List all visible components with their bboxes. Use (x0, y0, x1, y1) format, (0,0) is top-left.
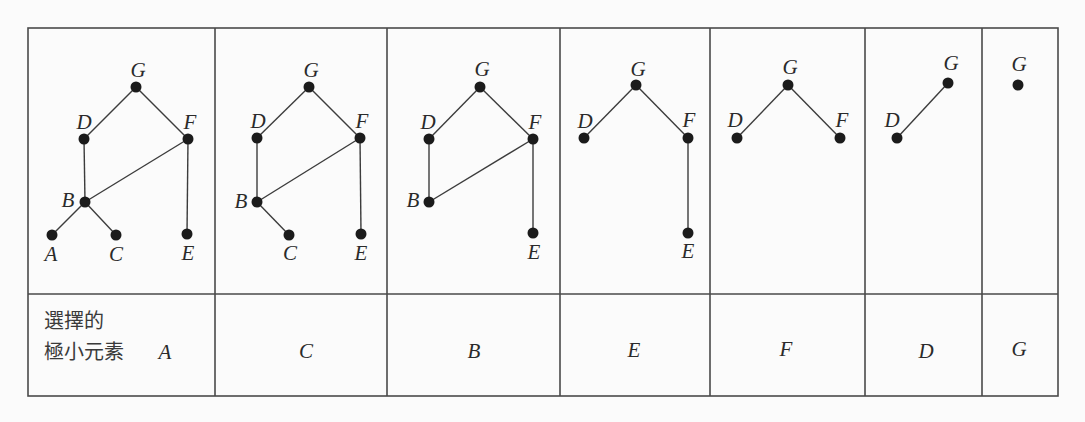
panel-3-node-B (424, 197, 435, 208)
panel-2-edge-B-F (257, 138, 360, 202)
panel-1-node-F (183, 134, 194, 145)
panel-4-node-F (683, 133, 694, 144)
panel-2-label-B: B (235, 189, 248, 213)
panel-5-label-D: D (726, 108, 742, 132)
panel-2-node-G (304, 82, 315, 93)
panel-1-label-G: G (130, 58, 145, 82)
selected-minimal-element-label: 選擇的 極小元素 (44, 306, 164, 368)
panel-4-label-E: E (681, 239, 695, 263)
panel-3-node-D (424, 134, 435, 145)
panel-3-label-E: E (527, 240, 541, 264)
panel-1-edge-F-E (187, 139, 188, 234)
panel-6-label-D: D (883, 108, 899, 132)
table-outer-border (28, 28, 1058, 396)
panel-1-node-B (80, 197, 91, 208)
panel-2-edge-B-C (257, 202, 289, 235)
panel-7-selected-element: G (1011, 337, 1026, 361)
panel-1-node-G (131, 82, 142, 93)
panel-2-edge-G-F (309, 87, 360, 138)
panel-1-label-A: A (43, 242, 58, 266)
panel-2-node-F (355, 133, 366, 144)
panel-2-edge-F-E (360, 138, 361, 234)
figure-page: GDFBACEAGDFBCECGDFBEBGDFEEGDFFDGDGG 選擇的 … (0, 0, 1085, 422)
panel-1-label-C: C (109, 242, 124, 266)
panel-1-edge-G-D (84, 87, 136, 139)
panel-5-edge-G-D (737, 85, 788, 138)
panel-6-selected-element: D (917, 339, 933, 363)
panel-2-node-B (252, 197, 263, 208)
panel-7-label-G: G (1011, 52, 1026, 76)
panel-1-edge-B-F (85, 139, 188, 202)
panel-3-node-F (528, 134, 539, 145)
panel-4-node-G (631, 80, 642, 91)
panel-1-edge-D-B (84, 139, 85, 202)
panel-5-label-F: F (835, 108, 849, 132)
panel-3-node-E (528, 228, 539, 239)
panel-2-label-C: C (283, 241, 298, 265)
panel-2-node-E (356, 229, 367, 240)
panel-2-selected-element: C (299, 339, 314, 363)
panel-2-label-F: F (355, 109, 369, 133)
panel-6-node-D (892, 133, 903, 144)
panel-5-node-D (732, 133, 743, 144)
panel-2-node-C (284, 230, 295, 241)
panel-2-node-D (252, 133, 263, 144)
panel-4-edge-G-F (636, 85, 688, 138)
panel-5-node-G (783, 80, 794, 91)
panel-3-edge-B-F (429, 139, 533, 202)
panel-3-node-G (475, 82, 486, 93)
panel-3-edge-G-F (480, 87, 533, 139)
panel-2-label-D: D (249, 109, 265, 133)
panel-5-node-F (835, 133, 846, 144)
panel-4-label-G: G (630, 57, 645, 81)
panel-1-node-E (182, 229, 193, 240)
panel-3-edge-G-D (429, 87, 480, 139)
panel-3-label-B: B (407, 188, 420, 212)
panel-1-node-A (47, 230, 58, 241)
panel-2-label-E: E (354, 241, 368, 265)
panel-1-edge-B-C (85, 202, 116, 235)
panel-6-label-G: G (943, 51, 958, 75)
panel-6-edge-D-G (897, 83, 948, 138)
panel-1-label-B: B (62, 188, 75, 212)
panel-5-label-G: G (782, 55, 797, 79)
panel-3-label-F: F (528, 110, 542, 134)
caption-line-1: 選擇的 (44, 306, 164, 337)
panel-2-label-G: G (303, 58, 318, 82)
panel-4-label-D: D (576, 109, 592, 133)
panel-1-edge-G-F (136, 87, 188, 139)
panel-4-node-E (683, 228, 694, 239)
panel-3-selected-element: B (468, 339, 481, 363)
panel-3-label-D: D (419, 110, 435, 134)
panel-1-node-C (111, 230, 122, 241)
panel-5-edge-G-F (788, 85, 840, 138)
panel-6-node-G (943, 78, 954, 89)
panel-3-label-G: G (474, 57, 489, 81)
panel-1-label-D: D (75, 110, 91, 134)
panel-1-label-E: E (181, 241, 195, 265)
panel-4-selected-element: E (627, 338, 641, 362)
panel-4-node-D (579, 133, 590, 144)
panel-1-node-D (79, 134, 90, 145)
caption-line-2: 極小元素 (44, 337, 164, 368)
panel-7-node-G (1013, 80, 1024, 91)
panel-5-selected-element: F (779, 337, 793, 361)
panel-1-label-F: F (183, 110, 197, 134)
panel-4-label-F: F (682, 108, 696, 132)
